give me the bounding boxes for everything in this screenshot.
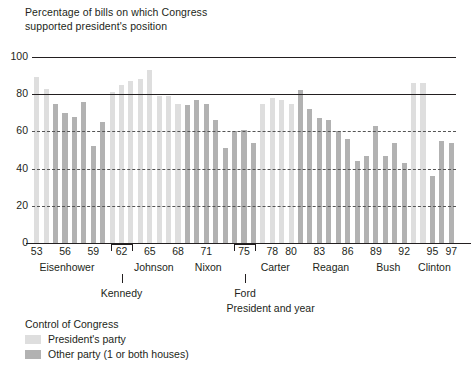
president-label-kennedy: Kennedy: [82, 288, 162, 299]
x-axis-tick-80: 80: [279, 246, 303, 257]
bar: [289, 104, 294, 244]
legend-item-other-party: Other party (1 or both houses): [25, 348, 189, 361]
bar: [439, 141, 444, 243]
y-axis-tick-20: 20: [16, 200, 28, 211]
bar: [204, 104, 209, 244]
x-axis-tick-83: 83: [307, 246, 331, 257]
bar: [402, 163, 407, 243]
bar: [355, 161, 360, 243]
bracket-kennedy: [111, 244, 133, 251]
bar: [336, 131, 341, 243]
bar: [72, 117, 77, 243]
bar: [138, 79, 143, 243]
bar: [317, 118, 322, 243]
x-axis-label: President and year: [227, 302, 315, 314]
legend-label-presidents-party: President's party: [48, 334, 126, 345]
y-axis-tick-40: 40: [16, 163, 28, 174]
president-label-eisenhower: Eisenhower: [27, 262, 107, 273]
bar: [449, 143, 454, 243]
bar: [185, 105, 190, 243]
x-axis-tick-71: 71: [194, 246, 218, 257]
legend: Control of Congress President's party Ot…: [25, 317, 189, 361]
bracket-stem-ford: [245, 274, 246, 283]
chart-figure: Percentage of bills on which Congress su…: [0, 0, 475, 392]
x-axis-tick-53: 53: [25, 246, 49, 257]
bar: [251, 143, 256, 243]
bar: [175, 104, 180, 244]
bar: [392, 143, 397, 243]
bar: [223, 148, 228, 243]
legend-swatch-other-party: [25, 350, 41, 359]
bar: [213, 120, 218, 243]
x-axis-tick-59: 59: [81, 246, 105, 257]
x-axis-tick-65: 65: [138, 246, 162, 257]
bar: [420, 83, 425, 243]
plot-area: 020406080100: [32, 57, 456, 243]
bar: [232, 131, 237, 243]
bar: [411, 83, 416, 243]
bar: [44, 89, 49, 243]
gridline: [32, 94, 456, 95]
bar: [326, 120, 331, 243]
bar: [307, 109, 312, 243]
bar: [279, 100, 284, 243]
bracket-stem-kennedy: [122, 274, 123, 283]
bar: [34, 77, 39, 243]
legend-heading: Control of Congress: [25, 317, 189, 331]
legend-label-other-party: Other party (1 or both houses): [48, 349, 189, 360]
y-axis-tick-60: 60: [16, 125, 28, 136]
bar: [91, 146, 96, 243]
x-axis-tick-56: 56: [53, 246, 77, 257]
bar: [147, 70, 152, 243]
x-axis-tick-68: 68: [166, 246, 190, 257]
bar: [260, 104, 265, 244]
x-axis: 53565962656871757880838689929597Eisenhow…: [0, 0, 475, 70]
bar: [194, 100, 199, 243]
president-label-clinton: Clinton: [394, 262, 474, 273]
bar: [270, 98, 275, 243]
y-axis-tick-80: 80: [16, 88, 28, 99]
bar-series: [32, 57, 456, 243]
bar: [81, 102, 86, 243]
bar: [100, 122, 105, 243]
bar: [119, 85, 124, 243]
president-label-ford: Ford: [205, 288, 285, 299]
bar: [128, 81, 133, 243]
gridline: [32, 206, 456, 207]
x-axis-tick-92: 92: [392, 246, 416, 257]
x-axis-tick-89: 89: [364, 246, 388, 257]
bar: [373, 126, 378, 243]
bar: [345, 139, 350, 243]
x-axis-tick-86: 86: [336, 246, 360, 257]
gridline: [32, 131, 456, 132]
legend-swatch-presidents-party: [25, 335, 41, 344]
gridline: [32, 169, 456, 170]
bar: [53, 104, 58, 244]
x-axis-tick-97: 97: [439, 246, 463, 257]
bar: [241, 130, 246, 243]
bar: [430, 176, 435, 243]
bracket-ford: [234, 244, 256, 251]
legend-item-presidents-party: President's party: [25, 333, 189, 346]
bar: [298, 90, 303, 243]
